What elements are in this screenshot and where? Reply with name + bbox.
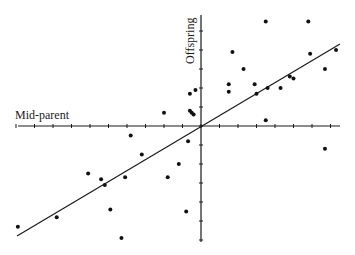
regression-line	[17, 44, 340, 236]
data-point	[188, 92, 192, 96]
y-axis	[199, 15, 203, 242]
data-point	[230, 50, 234, 54]
data-point	[279, 86, 283, 90]
x-axis	[16, 124, 340, 128]
data-point	[184, 210, 188, 214]
data-point	[308, 52, 312, 56]
data-point	[129, 134, 133, 138]
x-axis-label: Mid-parent	[15, 108, 69, 123]
data-point	[264, 118, 268, 122]
data-point	[323, 147, 327, 151]
data-points	[16, 20, 338, 241]
data-point	[242, 67, 246, 71]
data-point	[140, 153, 144, 157]
data-point	[264, 20, 268, 24]
data-point	[227, 82, 231, 86]
data-point	[334, 48, 338, 52]
data-point	[166, 175, 170, 179]
data-point	[186, 139, 190, 143]
data-point	[103, 183, 107, 187]
data-point	[177, 162, 181, 166]
data-point	[99, 177, 103, 181]
data-point	[119, 236, 123, 240]
scatter-plot	[0, 0, 355, 255]
data-point	[292, 77, 296, 81]
data-point	[16, 225, 20, 229]
data-point	[288, 75, 292, 79]
data-point	[306, 20, 310, 24]
data-point	[255, 92, 259, 96]
y-axis-label: Offspring	[183, 18, 198, 64]
data-point	[162, 111, 166, 115]
data-point	[123, 175, 127, 179]
data-point	[86, 172, 90, 176]
data-point	[108, 208, 112, 212]
data-point	[266, 86, 270, 90]
data-point	[323, 67, 327, 71]
data-point	[227, 90, 231, 94]
data-point	[193, 88, 197, 92]
data-point	[253, 82, 257, 86]
data-point	[192, 113, 196, 117]
data-point	[55, 215, 59, 219]
